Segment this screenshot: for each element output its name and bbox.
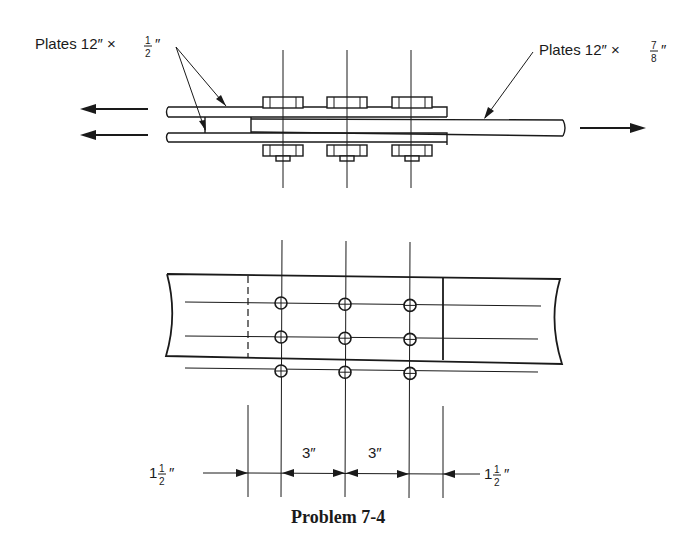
leader-right-plates [484, 52, 533, 119]
dimension-line [203, 469, 480, 478]
label-right-inch: ″ [661, 41, 667, 58]
label-left-inch: ″ [155, 35, 161, 52]
gauge-line-3 [185, 368, 538, 372]
side-view: Plates 12″ × 1 2 ″ Plates 12″ × 7 8 ″ [35, 35, 667, 188]
plan-view: 1 1 2 ″ 3″ 3″ 1 1 2 ″ [149, 240, 562, 498]
load-arrow-left-top [80, 104, 148, 114]
load-arrow-left-bottom [80, 130, 148, 140]
label-right-frac-num: 7 [651, 40, 657, 51]
dim-edge-left-den: 2 [159, 476, 165, 487]
label-right-frac-den: 8 [651, 53, 657, 64]
dim-edge-right-unit: ″ [504, 465, 510, 482]
splice-plate-bottom [167, 133, 448, 145]
plate-outline [166, 274, 562, 364]
bolt-3 [392, 97, 432, 161]
dim-pitch-2: 3″ [368, 444, 382, 461]
dim-edge-left-whole: 1 [149, 464, 157, 481]
load-arrow-right [580, 123, 646, 133]
label-left-frac-num: 1 [145, 35, 151, 46]
dim-edge-left-num: 1 [159, 463, 165, 474]
dim-edge-right-num: 1 [494, 464, 500, 475]
leader-left-plates [176, 47, 226, 131]
label-left-frac-den: 2 [145, 48, 151, 59]
dim-edge-right-den: 2 [494, 477, 500, 488]
gauge-line-2 [185, 336, 538, 339]
dim-edge-left-unit: ″ [169, 464, 175, 481]
main-plate-left [205, 117, 251, 133]
label-left-plates: Plates 12″ × [35, 35, 116, 52]
gauge-line-1 [185, 302, 541, 306]
dim-pitch-1: 3″ [302, 444, 316, 461]
dim-edge-right-whole: 1 [484, 465, 492, 482]
bolted-connection-diagram: Plates 12″ × 1 2 ″ Plates 12″ × 7 8 ″ [0, 0, 700, 556]
label-right-plates: Plates 12″ × [539, 41, 620, 58]
figure-caption: Problem 7-4 [291, 507, 385, 527]
